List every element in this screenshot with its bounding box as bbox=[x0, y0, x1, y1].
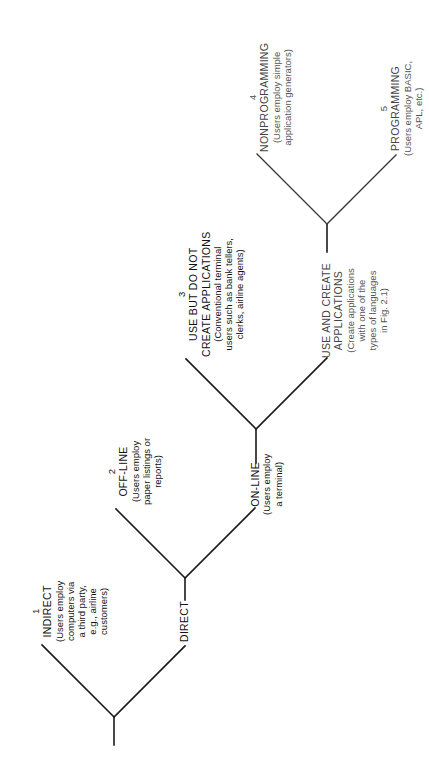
branch-line-programming bbox=[327, 155, 396, 224]
node-desc-line: customers) bbox=[98, 581, 109, 642]
node-title: OFF-LINE bbox=[117, 438, 129, 505]
node-desc-line: clerks, airline agents) bbox=[234, 231, 245, 357]
node-desc-line: with one of the bbox=[356, 263, 367, 358]
node-number: 1 bbox=[30, 581, 41, 642]
node-use-but-not-create: 3 USE BUT DO NOT CREATE APPLICATIONS (Co… bbox=[176, 231, 246, 357]
node-desc-line: (Create applications bbox=[345, 263, 356, 358]
node-title: ON-LINE bbox=[249, 454, 261, 515]
node-title: DIRECT bbox=[178, 601, 190, 642]
node-direct: DIRECT bbox=[178, 601, 190, 642]
branch-line-use-and-create bbox=[256, 358, 327, 429]
node-desc-line: (Conventional terminal bbox=[212, 231, 223, 357]
branch-line-indirect bbox=[42, 645, 114, 717]
branch-line-offline bbox=[116, 509, 185, 578]
branch-line-online bbox=[185, 508, 255, 578]
node-number: 5 bbox=[378, 61, 389, 156]
node-desc-line: types of languages bbox=[367, 263, 378, 358]
node-desc-line: computers via bbox=[65, 581, 76, 642]
node-use-and-create: USE AND CREATE APPLICATIONS (Create appl… bbox=[320, 263, 390, 358]
node-title: NONPROGRAMMING bbox=[258, 43, 270, 152]
node-nonprogramming: 4 NONPROGRAMMING (Users employ simple ap… bbox=[247, 43, 293, 152]
node-number: 4 bbox=[247, 43, 258, 152]
node-desc-line: APL, etc.) bbox=[413, 61, 424, 156]
node-online: ON-LINE (Users employ a terminal) bbox=[249, 454, 284, 515]
node-desc-line: users such as bank tellers, bbox=[223, 231, 234, 357]
node-number: 3 bbox=[176, 231, 187, 357]
node-desc-line: in Fig. 2.1) bbox=[378, 263, 389, 358]
branch-line-use-not-create bbox=[186, 359, 256, 429]
branch-line-nonprogramming bbox=[257, 154, 327, 224]
node-title-line: USE AND CREATE bbox=[320, 263, 332, 358]
node-desc-line: paper listings or bbox=[141, 438, 152, 505]
user-classification-tree-diagram: 1 INDIRECT (Users employ computers via a… bbox=[0, 0, 429, 784]
node-title: PROGRAMMING bbox=[389, 61, 401, 156]
node-number: 2 bbox=[106, 438, 117, 505]
node-desc-line: e.g., airline bbox=[87, 581, 98, 642]
node-desc-line: application generators) bbox=[282, 43, 293, 152]
node-desc-line: (Users employ bbox=[130, 438, 141, 505]
node-programming: 5 PROGRAMMING (Users employ BASIC, APL, … bbox=[378, 61, 424, 156]
node-desc-line: a third party, bbox=[76, 581, 87, 642]
node-desc-line: (Users employ bbox=[54, 581, 65, 642]
node-offline: 2 OFF-LINE (Users employ paper listings … bbox=[106, 438, 163, 505]
node-title-line: USE BUT DO NOT bbox=[187, 231, 199, 357]
node-title: INDIRECT bbox=[41, 581, 53, 642]
branch-line-direct bbox=[114, 646, 185, 717]
node-desc-line: reports) bbox=[152, 438, 163, 505]
node-desc-line: (Users employ BASIC, bbox=[402, 61, 413, 156]
node-title-line: APPLICATIONS bbox=[332, 263, 344, 358]
node-indirect: 1 INDIRECT (Users employ computers via a… bbox=[30, 581, 110, 642]
tree-branch-lines bbox=[0, 0, 429, 784]
node-title-line: CREATE APPLICATIONS bbox=[200, 231, 212, 357]
node-desc-line: a terminal) bbox=[273, 454, 284, 515]
node-desc-line: (Users employ simple bbox=[271, 43, 282, 152]
node-desc-line: (Users employ bbox=[261, 454, 272, 515]
